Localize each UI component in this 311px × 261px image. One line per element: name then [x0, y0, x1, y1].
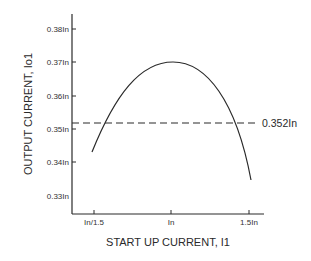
y-tick-label: 0.33In	[47, 192, 69, 201]
x-tick-label: 1.5In	[240, 218, 258, 227]
chart: 0.38In 0.37In 0.36In 0.35In 0.34In 0.33I…	[0, 0, 311, 261]
x-tick-label: In/1.5	[84, 218, 105, 227]
y-tick-label: 0.37In	[47, 58, 69, 67]
data-curve	[92, 62, 251, 180]
y-tick-label: 0.35In	[47, 125, 69, 134]
y-axis-title: OUTPUT CURRENT, Io1	[22, 53, 34, 175]
x-axis-title: START UP CURRENT, I1	[106, 236, 230, 248]
y-tick-label: 0.34In	[47, 158, 69, 167]
reference-label: 0.352In	[262, 117, 297, 129]
y-tick-label: 0.36In	[47, 92, 69, 101]
y-tick-label: 0.38In	[47, 25, 69, 34]
x-tick-label: In	[168, 218, 175, 227]
